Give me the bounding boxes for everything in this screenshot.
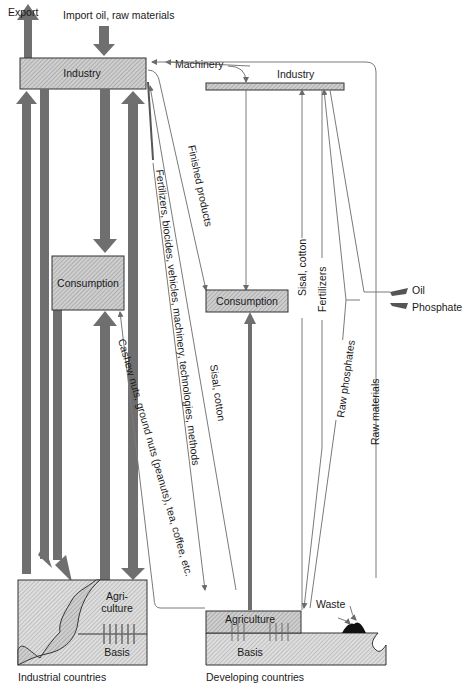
developing-consumption-box: Consumption	[206, 290, 288, 312]
developing-industry-bar: Industry	[206, 68, 344, 90]
industrial-agriculture-label-1: Agri-	[106, 590, 129, 602]
industrial-agriculture-label-2: culture	[101, 602, 133, 614]
machinery-label: Machinery	[175, 58, 224, 70]
developing-consumption-label: Consumption	[216, 295, 278, 307]
industrial-countries-caption: Industrial countries	[18, 671, 106, 683]
import-arrow	[93, 26, 115, 56]
oil-input: Oil	[390, 284, 425, 296]
phosphate-input: Phosphate	[390, 301, 462, 313]
import-label: Import oil, raw materials	[63, 9, 174, 21]
developing-basis-label: Basis	[237, 646, 263, 658]
raw-materials-label: Raw materials	[369, 378, 381, 445]
industrial-industry-label: Industry	[63, 67, 101, 79]
export-label: Export	[8, 6, 38, 18]
raw-materials-flow	[152, 62, 376, 578]
sisal-cotton-left-label: Sisal, cotton	[208, 364, 228, 422]
industrial-industry-box: Industry	[20, 58, 146, 89]
developing-agri-to-consumption-arrow	[244, 312, 256, 610]
waste-pile: Waste	[316, 598, 366, 633]
phosphate-label: Phosphate	[412, 301, 462, 313]
industrial-flow-down-3	[53, 310, 72, 582]
fertilizers-flow	[304, 90, 322, 608]
industry-to-consumption-arrow	[93, 89, 117, 253]
industrial-flow-up-1	[16, 91, 37, 574]
waste-label: Waste	[316, 598, 346, 610]
industrial-consumption-label: Consumption	[57, 277, 119, 289]
flow-diagram: Export Import oil, raw materials Industr…	[0, 0, 468, 691]
fertilizers-biocides-label: Fertilizers, biocides, vehicles, machine…	[154, 169, 202, 466]
finished-products-label: Finished products	[186, 144, 215, 228]
industrial-consumption-box: Consumption	[52, 256, 124, 310]
industrial-flow-down-2	[38, 89, 52, 568]
developing-basis: Agriculture Basis	[206, 611, 386, 665]
agriculture-to-consumption-arrow	[93, 311, 117, 581]
industrial-basis: Agri- culture Basis	[18, 580, 147, 665]
developing-countries-caption: Developing countries	[206, 671, 304, 683]
fertilizers-label: Fertilizers	[316, 266, 328, 312]
developing-industry-label: Industry	[277, 68, 315, 80]
oil-label: Oil	[412, 284, 425, 296]
sisal-cotton-right-label: Sisal, cotton	[296, 239, 308, 296]
oil-flow	[330, 90, 390, 292]
industrial-basis-label: Basis	[104, 646, 130, 658]
